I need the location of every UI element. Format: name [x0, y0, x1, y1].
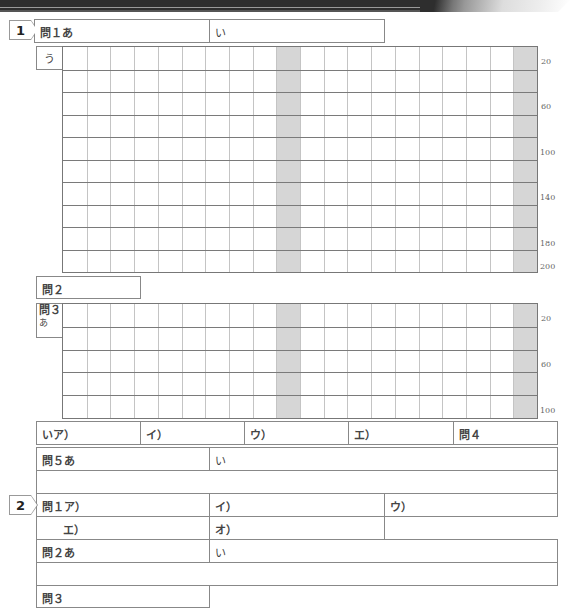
grid-column-line: [513, 304, 514, 418]
section-2-badge: 2: [9, 495, 31, 515]
grid-column-line: [347, 304, 348, 418]
q1-u-label-text: う: [44, 53, 55, 66]
grid-row-line: [63, 70, 537, 71]
s2-q3-field[interactable]: 問３: [36, 585, 210, 608]
field-label: オ）: [215, 524, 237, 537]
q1-u-label: う: [36, 46, 63, 70]
q5-i-field[interactable]: い: [210, 448, 557, 471]
q4-field[interactable]: 問４: [454, 422, 558, 444]
grid-column-line: [300, 304, 301, 418]
grid-row-line: [63, 115, 537, 116]
grid-column-line: [110, 304, 111, 418]
q3-i-a-field[interactable]: いア）: [37, 422, 141, 444]
grid-row-line: [63, 92, 537, 93]
field-label: 問４: [459, 429, 481, 442]
grid-row-line: [63, 327, 537, 328]
grid-column-line: [253, 304, 254, 418]
char-count-200: 200: [540, 262, 555, 271]
field-label: エ）: [63, 524, 85, 537]
grid-row-line: [63, 250, 537, 251]
q3-i-u-field[interactable]: ウ）: [245, 422, 349, 444]
q1-i-field[interactable]: い: [210, 20, 385, 42]
q5-i-answer-field[interactable]: [37, 471, 557, 493]
grid-column-line: [205, 304, 206, 418]
q3-i-q4-row: いア） イ） ウ） エ） 問４: [36, 421, 558, 445]
q1-a-field[interactable]: 問１あ: [35, 20, 210, 42]
grid-column-line: [371, 304, 372, 418]
s2-q2-i-field[interactable]: い: [210, 540, 557, 563]
s2-q1-block: 問１ア） イ） ウ） エ） オ）: [36, 493, 558, 540]
q3-label-top: 問３: [39, 305, 63, 317]
s2-q1-i-field[interactable]: イ）: [210, 494, 385, 517]
s2-q2-i-answer-field[interactable]: [37, 563, 557, 585]
q2-label: 問２: [42, 284, 64, 297]
q1-u-writing-grid[interactable]: [62, 46, 538, 273]
s2-q1-e-field[interactable]: エ）: [37, 517, 210, 540]
q3-i-e-field[interactable]: エ）: [349, 422, 453, 444]
grid-column-line: [490, 304, 491, 418]
q5-block: 問５あ い: [36, 447, 558, 494]
grid-row-line: [63, 160, 537, 161]
section-1-badge: 1: [9, 20, 31, 40]
grid-column-line: [87, 304, 88, 418]
s2-q3-label: 問３: [42, 593, 64, 606]
grid-row-line: [63, 137, 537, 138]
grid-column-line: [466, 304, 467, 418]
s2-q2-block: 問２あ い: [36, 539, 558, 586]
header-banner: [0, 0, 440, 12]
q5-i-label: い: [215, 455, 226, 468]
char-count-140: 140: [540, 193, 555, 202]
char-count-180: 180: [540, 239, 555, 248]
s2-q1-a-field[interactable]: 問１ア）: [37, 494, 210, 517]
field-label: エ）: [354, 429, 376, 442]
grid-row-line: [63, 227, 537, 228]
grid-row-line: [63, 182, 537, 183]
q3-a-writing-grid[interactable]: [62, 303, 538, 419]
q1-answer-row: 問１あ い: [34, 19, 385, 43]
field-label: 問１ア）: [42, 501, 86, 514]
grid-column-line: [324, 304, 325, 418]
field-label: イ）: [215, 501, 237, 514]
q2-field[interactable]: 問２: [36, 276, 141, 299]
field-label: いア）: [42, 429, 75, 442]
grid-column-line: [182, 304, 183, 418]
char-count-60: 60: [541, 360, 551, 369]
char-count-100: 100: [540, 148, 555, 157]
grid-row-line: [63, 395, 537, 396]
char-count-100: 100: [540, 406, 555, 415]
grid-column-line: [276, 304, 277, 418]
grid-column-line: [229, 304, 230, 418]
char-count-60: 60: [541, 102, 551, 111]
grid-column-line: [419, 304, 420, 418]
q5-a-field[interactable]: 問５あ: [37, 448, 210, 471]
grid-column-line: [134, 304, 135, 418]
q1-a-label: 問１あ: [40, 27, 73, 40]
shaded-column: [276, 304, 300, 418]
header-rule: [0, 7, 430, 8]
grid-row-line: [63, 350, 537, 351]
grid-row-line: [63, 372, 537, 373]
q3-label-sub: あ: [39, 317, 63, 329]
field-label: ウ）: [390, 501, 412, 514]
grid-row-line: [63, 205, 537, 206]
q1-i-label: い: [215, 27, 226, 40]
s2-q1-u-field[interactable]: ウ）: [385, 494, 558, 517]
field-label: イ）: [146, 429, 168, 442]
grid-column-line: [442, 304, 443, 418]
field-label: ウ）: [250, 429, 272, 442]
section-number: 2: [16, 498, 25, 513]
s2-q2-a-label: 問２あ: [42, 547, 75, 560]
char-count-20: 20: [541, 314, 551, 323]
s2-q2-i-label: い: [215, 547, 226, 560]
grid-column-line: [395, 304, 396, 418]
header-banner-tail: [420, 0, 570, 12]
s2-q1-o-field[interactable]: オ）: [210, 517, 385, 540]
char-count-20: 20: [541, 57, 551, 66]
s2-q2-a-field[interactable]: 問２あ: [37, 540, 210, 563]
section-number: 1: [16, 23, 25, 38]
grid-column-line: [158, 304, 159, 418]
q3-a-label: 問３ あ: [36, 303, 63, 338]
shaded-column: [513, 304, 537, 418]
q3-i-i-field[interactable]: イ）: [141, 422, 245, 444]
q5-a-label: 問５あ: [42, 455, 75, 468]
